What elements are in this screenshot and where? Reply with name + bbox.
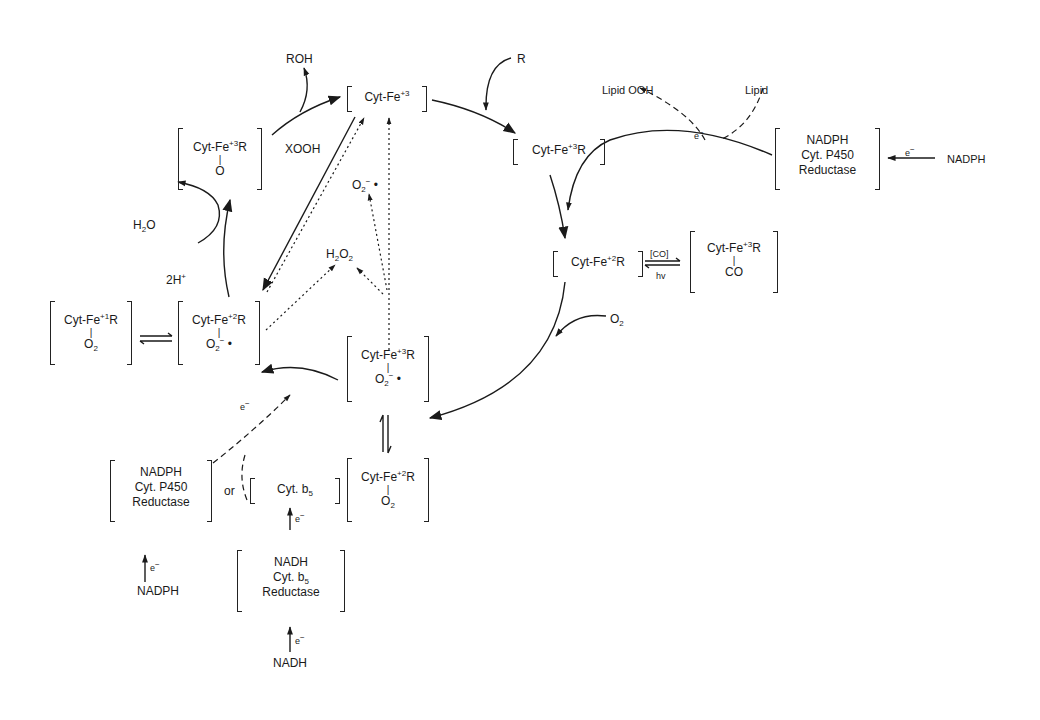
arrow-r-binding <box>486 58 511 110</box>
enzyme-line: Reductase <box>775 163 880 178</box>
co-label: [CO] <box>650 247 669 261</box>
bracket-left <box>250 478 255 504</box>
bracket-left <box>237 550 242 612</box>
arrow-o2-binding <box>556 315 606 336</box>
enzyme-p450-reductase-right: NADPH Cyt. P450 Reductase <box>775 130 880 188</box>
electron-label-nadph-left: e− <box>150 561 160 575</box>
electron-label-b5: e− <box>295 512 305 526</box>
bracket-right <box>340 550 345 612</box>
substrate-r: R <box>616 255 625 269</box>
species-fe2R-superoxide: Cyt-Fe+2R | O2− • <box>178 305 260 361</box>
enzyme-cyt-b5: Cyt. b5 <box>250 482 340 497</box>
charge: − <box>300 511 305 520</box>
enzyme-line: Cyt. b <box>273 570 304 584</box>
bracket-right <box>638 251 643 277</box>
superoxide-label: O2− • <box>352 178 378 192</box>
enzyme-p450-reductase-left: NADPH Cyt. P450 Reductase <box>110 462 212 520</box>
ligand: O <box>178 164 262 179</box>
roh-label: ROH <box>286 52 313 66</box>
bond: | <box>50 328 132 337</box>
species-text: Cyt-Fe <box>193 140 229 154</box>
arrow-to-fe3R-superoxide <box>430 282 565 418</box>
species-fe2R-o2: Cyt-Fe+2R | O2 <box>347 462 429 516</box>
enzyme-line: Cyt. P450 <box>775 148 880 163</box>
bracket-left <box>553 251 558 277</box>
equilibrium-down <box>388 415 391 453</box>
enzyme-b5-reductase: NADH Cyt. b5 Reductase <box>237 552 345 610</box>
species-fe3: Cyt-Fe+3 <box>347 90 427 105</box>
bracket-left <box>775 128 780 190</box>
bracket-left <box>513 139 518 165</box>
dotted-to-h2o2 <box>266 265 335 330</box>
electron-label-lipid: e− <box>694 129 704 143</box>
h-text: 2H <box>166 273 181 287</box>
bracket-right <box>773 231 778 293</box>
oxidation-state: +2 <box>607 254 616 263</box>
two-protons-label: 2H+ <box>166 273 186 287</box>
species-fe1R-o2: Cyt-Fe+1R | O2 <box>50 305 132 361</box>
electron-label-reduction: e− <box>240 400 250 414</box>
substrate-r: R <box>577 143 586 157</box>
species-text: Cyt-Fe <box>571 255 607 269</box>
ligand-subscript: 2 <box>384 379 388 388</box>
substrate-r: R <box>238 140 247 154</box>
charge: − <box>300 633 305 642</box>
charge: − <box>245 399 250 408</box>
lipid-label: Lipid <box>745 83 768 97</box>
ligand: O <box>206 337 215 351</box>
sub: 2 <box>361 185 365 194</box>
bracket-right <box>424 458 429 522</box>
radical-dot: • <box>397 372 401 386</box>
lipid-ooh-label: Lipid OOH <box>602 83 653 97</box>
bracket-right <box>207 460 212 522</box>
enzyme-line: NADPH <box>775 133 880 148</box>
arrow-to-fe2R-superoxide <box>262 368 338 381</box>
oxidation-state: +3 <box>568 142 577 151</box>
oxidation-state: +2 <box>397 469 406 478</box>
species-fe3R: Cyt-Fe+3R <box>513 143 605 158</box>
h2o-label: H2O <box>133 218 155 232</box>
arrow-water-release <box>178 182 219 243</box>
charge: − <box>910 145 915 154</box>
equilibrium-co-back <box>645 265 680 268</box>
bracket-right <box>424 336 429 402</box>
oxidation-state: +3 <box>229 139 238 148</box>
equilibrium-up <box>380 415 383 452</box>
o: O <box>352 178 361 192</box>
nadh-label: NADH <box>273 656 307 670</box>
electron-label-nadh: e− <box>295 634 305 648</box>
species-fe3R-superoxide: Cyt-Fe+3R | O2− • <box>347 340 429 396</box>
species-fe2R: Cyt-Fe+2R <box>553 255 643 270</box>
species-text: Cyt-Fe <box>361 470 397 484</box>
hv-label: hv <box>656 269 666 283</box>
bracket-left <box>690 231 695 293</box>
species-text: Cyt-Fe <box>361 348 397 362</box>
substrate-r: R <box>406 348 415 362</box>
or-label: or <box>224 484 235 498</box>
nadph-label-right: NADPH <box>947 152 986 166</box>
bracket-left <box>347 86 352 112</box>
species-fe3R-co: Cyt-Fe+3R | CO <box>690 235 778 287</box>
ligand: CO <box>690 265 778 280</box>
o: O <box>146 218 155 232</box>
species-text: Cyt-Fe <box>364 90 400 104</box>
subscript: 5 <box>308 489 312 498</box>
bracket-left <box>50 301 55 365</box>
ligand-charge: − <box>389 371 394 380</box>
charge: − <box>155 560 160 569</box>
bracket-right <box>600 139 605 165</box>
dotted-branch-h2o2 <box>357 268 383 294</box>
charge: + <box>181 272 186 281</box>
arrow-electron-to-fe2R-superoxide <box>213 395 290 463</box>
bond: | <box>178 155 262 164</box>
species-text: Cyt-Fe <box>192 313 228 327</box>
bracket-right <box>422 86 427 112</box>
substrate-r: R <box>237 313 246 327</box>
bond: | <box>347 485 429 494</box>
nadph-label-left: NADPH <box>137 584 179 598</box>
dotted-to-superoxide <box>369 194 387 290</box>
reaction-arrows-layer <box>0 0 1040 720</box>
equilibrium-left <box>140 333 172 336</box>
equilibrium-right <box>140 341 172 344</box>
h: H <box>326 247 335 261</box>
